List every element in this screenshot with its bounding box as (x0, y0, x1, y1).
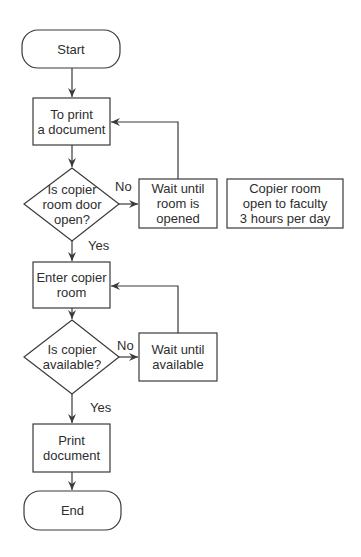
wait-available-label: Wait until available (139, 333, 217, 381)
arrow-wait-room-loop (111, 122, 178, 179)
wait-room-label: Wait until room is opened (139, 179, 217, 228)
to-print-label: To print a document (33, 98, 110, 145)
end-label: End (24, 491, 121, 530)
door-open-label: Is copier room door open? (24, 168, 120, 241)
arrow-wait-avail-loop (111, 286, 178, 333)
edge-label-door-no: No (115, 179, 132, 194)
edge-label-door-yes: Yes (88, 238, 109, 253)
enter-room-label: Enter copier room (33, 262, 110, 308)
start-label: Start (22, 30, 120, 68)
print-doc-label: Print document (33, 424, 110, 472)
note-label: Copier room open to faculty 3 hours per … (227, 179, 343, 228)
copier-available-label: Is copier available? (24, 320, 120, 394)
edge-label-avail-no: No (117, 338, 134, 353)
edge-label-avail-yes: Yes (90, 400, 111, 415)
